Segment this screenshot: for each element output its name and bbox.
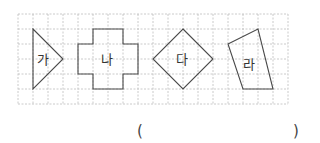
shape-label-na: 나 bbox=[101, 52, 113, 67]
shape-label-ra: 라 bbox=[243, 57, 255, 72]
shape-ra: 라 bbox=[228, 29, 273, 89]
answer-close-paren: ) bbox=[293, 122, 299, 140]
shape-label-ga: 가 bbox=[37, 52, 49, 67]
answer-blank[interactable] bbox=[150, 122, 290, 140]
shape-na: 나 bbox=[78, 29, 138, 89]
shape-label-da: 다 bbox=[176, 52, 188, 67]
answer-open-paren: ( bbox=[137, 122, 143, 140]
